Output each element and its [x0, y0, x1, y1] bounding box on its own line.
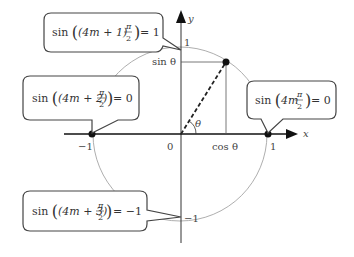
- y-axis-arrow-icon: [176, 10, 186, 23]
- x-tick-neg-one: −1: [78, 141, 93, 152]
- radius-line: [181, 62, 226, 134]
- origin-label: 0: [167, 141, 173, 152]
- svg-text:2: 2: [297, 102, 302, 111]
- callout-bottom: sin ((4m + 3) π 2 ) = −1: [23, 191, 181, 231]
- y-axis-label: y: [187, 13, 194, 24]
- svg-text:2: 2: [98, 213, 103, 222]
- svg-text:π: π: [97, 201, 104, 210]
- theta-label: θ: [195, 118, 201, 129]
- x-axis-label: x: [303, 128, 309, 139]
- svg-text:2: 2: [99, 100, 104, 109]
- svg-text:= 1: = 1: [140, 26, 160, 39]
- sin-theta-label: sin θ: [152, 56, 176, 67]
- cos-theta-label: cos θ: [212, 141, 238, 152]
- y-tick-pos-one: 1: [184, 37, 190, 48]
- x-axis-arrow-icon: [286, 129, 298, 139]
- svg-text:= 0: = 0: [113, 92, 133, 105]
- y-tick-neg-one: −1: [184, 213, 199, 224]
- callout-top: sin ((4m + 1) π 2 ) = 1: [44, 13, 181, 52]
- svg-text:= 0: = 0: [311, 94, 331, 107]
- point-cos-sin: [223, 59, 230, 66]
- svg-text:= −1: = −1: [113, 205, 142, 218]
- callout-left: sin ((4m + 2) π 2 ) = 0: [23, 76, 139, 133]
- svg-text:π: π: [296, 90, 303, 99]
- unit-circle-diagram: y x θ 0 −1 1 1 −1 cos θ sin θ sin ((4m +…: [0, 0, 354, 257]
- callout-right: sin (4m π 2 ) = 0: [247, 81, 336, 133]
- x-tick-pos-one: 1: [270, 141, 276, 152]
- svg-text:π: π: [98, 88, 105, 97]
- svg-text:2: 2: [126, 34, 131, 43]
- svg-text:): ): [106, 202, 112, 221]
- svg-text:π: π: [125, 22, 132, 31]
